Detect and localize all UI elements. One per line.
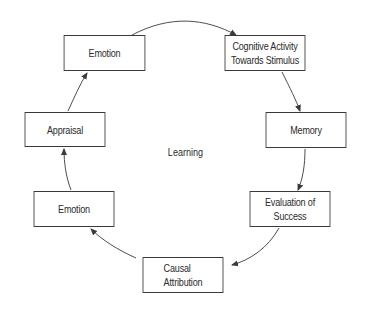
arrow-emotion-to-cognitive xyxy=(132,21,236,35)
node-cognitive-activity: Cognitive Activity Towards Stimulus xyxy=(225,35,306,71)
arrow-appraisal-to-emotion xyxy=(68,73,87,111)
arrow-causal-to-emotion xyxy=(91,229,136,258)
node-memory: Memory xyxy=(266,112,347,148)
learning-cycle-diagram: Emotion Cognitive Activity Towards Stimu… xyxy=(0,0,371,312)
node-label: Cognitive Activity Towards Stimulus xyxy=(231,39,299,67)
arrow-memory-to-evaluation xyxy=(298,149,305,190)
node-label: Evaluation of Success xyxy=(250,195,329,223)
node-label: Emotion xyxy=(58,202,90,216)
node-label: Emotion xyxy=(89,46,121,60)
arrow-evaluation-to-causal xyxy=(232,228,279,265)
node-causal-attribution: Causal Attribution xyxy=(143,257,224,293)
node-appraisal: Appraisal xyxy=(25,112,106,147)
arrow-cognitive-to-memory xyxy=(282,72,300,111)
node-label: Causal Attribution xyxy=(164,261,203,289)
node-emotion-bottom: Emotion xyxy=(34,191,115,227)
arrow-emotion-to-appraisal xyxy=(64,149,71,190)
node-label: Appraisal xyxy=(47,123,83,137)
center-label-learning: Learning xyxy=(168,146,203,158)
node-emotion-top: Emotion xyxy=(64,35,146,71)
node-evaluation-of-success: Evaluation of Success xyxy=(250,191,331,227)
node-label: Memory xyxy=(290,123,322,137)
